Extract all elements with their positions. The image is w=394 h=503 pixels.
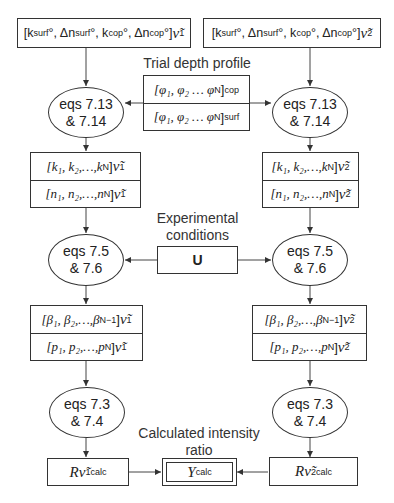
wavenumber-symbol: ν̃ (338, 339, 345, 356)
initial-params-box-nu1: [ksurf°, Δnsurf°, kcop°, Δncop°]ν̃1 (17, 18, 191, 48)
ellipse-line2: & 7.6 (70, 260, 103, 277)
p-list: [p₁, p₂,…,p (270, 339, 328, 355)
experimental-conditions-box: U (157, 246, 238, 274)
y-symbol: Y (187, 464, 195, 481)
param-k: [k (212, 26, 222, 40)
param-dn: °, Δn (49, 26, 76, 40)
ellipse-line2: & 7.6 (294, 260, 327, 277)
ellipse-line1: eqs 7.5 (287, 243, 333, 260)
y-calc-inner-box: Ycalc (166, 462, 233, 482)
experimental-conditions-title: Experimental conditions (150, 210, 245, 244)
trial-depth-profile-box: [φ₁, φ₂ … φN]cop [φ₁, φ₂ … φN]surf (143, 75, 250, 131)
param-dn: °, Δn (123, 26, 150, 40)
ellipse-line2: & 7.4 (294, 413, 327, 430)
title-line2: ratio (135, 442, 263, 459)
wavenumber-symbol: ν̃ (360, 25, 367, 42)
title-line2: conditions (150, 227, 245, 244)
title-line1: Calculated intensity (135, 425, 263, 442)
initial-params-text-nu2: [ksurf°, Δnsurf°, kcop°, Δncop°]ν̃2 (204, 19, 380, 47)
beta-list: [β₁, β₂,…,β (41, 312, 99, 328)
y-calc-outer-box: Ycalc (162, 458, 237, 486)
phi-list: [φ₁, φ₂ … φ (154, 109, 214, 125)
title-line1: Experimental (150, 210, 245, 227)
ellipse-line2: & 7.14 (66, 113, 106, 130)
ellipse-line1: eqs 7.5 (63, 243, 109, 260)
beta-row: [β₁, β₂,…,βN−1]ν̃2 (253, 306, 366, 333)
p-list: [p₁, p₂,…,p (47, 339, 105, 355)
ellipse-line1: eqs 7.13 (59, 96, 113, 113)
p-row: [p₁, p₂,…,pN]ν̃2 (253, 333, 366, 360)
k-row: [k₁, k₂,…,kN]ν̃2 (263, 153, 358, 180)
param-k: °, k (278, 26, 296, 40)
eqs-7-3-ellipse-right: eqs 7.3 & 7.4 (272, 387, 348, 438)
r-symbol: R (295, 463, 304, 480)
phi-list: [φ₁, φ₂ … φ (154, 82, 214, 98)
r-symbol: R (70, 464, 79, 481)
wavenumber-symbol: ν̃ (120, 311, 127, 328)
optical-constants-box-nu1: [k₁, k₂,…,kN]ν̃1 [n₁, n₂,…,nN]ν̃1 (30, 152, 141, 208)
ellipse-line2: & 7.4 (71, 413, 104, 430)
wavenumber-symbol: ν̃ (114, 186, 121, 203)
initial-params-text-nu1: [ksurf°, Δnsurf°, kcop°, Δncop°]ν̃1 (18, 19, 190, 47)
ellipse-line1: eqs 7.13 (283, 96, 337, 113)
eqs-7-13-ellipse-right: eqs 7.13 & 7.14 (272, 87, 348, 138)
k-list: [k₁, k₂,…,k (47, 159, 103, 175)
param-k: [k (24, 26, 34, 40)
r-calc-text-nu1: Rν̃1calc (48, 459, 128, 485)
n-list: [n₁, n₂,…,n (46, 186, 104, 202)
eqs-7-5-ellipse-right: eqs 7.5 & 7.6 (272, 234, 348, 286)
calculated-intensity-ratio-title: Calculated intensity ratio (135, 425, 263, 459)
wavenumber-symbol: ν̃ (79, 464, 86, 481)
wavenumber-symbol: ν̃ (115, 339, 122, 356)
wavenumber-symbol: ν̃ (304, 463, 311, 480)
n-list: [n₁, n₂,…,n (271, 186, 329, 202)
y-calc-text: Ycalc (167, 463, 232, 481)
r-calc-box-nu1: Rν̃1calc (47, 458, 129, 486)
eqs-7-3-ellipse-left: eqs 7.3 & 7.4 (49, 387, 125, 438)
beta-p-box-nu1: [β₁, β₂,…,βN−1]ν̃1 [p₁, p₂,…,pN]ν̃1 (30, 305, 143, 361)
wavenumber-symbol: ν̃ (339, 186, 346, 203)
ellipse-line1: eqs 7.3 (64, 396, 110, 413)
n-row: [n₁, n₂,…,nN]ν̃1 (31, 180, 140, 207)
optical-constants-box-nu2: [k₁, k₂,…,kN]ν̃2 [n₁, n₂,…,nN]ν̃2 (262, 152, 359, 208)
eqs-7-13-ellipse-left: eqs 7.13 & 7.14 (48, 87, 124, 138)
depth-profile-cop-row: [φ₁, φ₂ … φN]cop (144, 76, 249, 103)
p-row: [p₁, p₂,…,pN]ν̃1 (31, 333, 142, 360)
wavenumber-symbol: ν̃ (343, 311, 350, 328)
ellipse-line2: & 7.14 (290, 113, 330, 130)
wavenumber-symbol: ν̃ (172, 25, 179, 42)
param-close: °] (352, 26, 360, 40)
initial-params-box-nu2: [ksurf°, Δnsurf°, kcop°, Δncop°]ν̃2 (203, 18, 381, 48)
u-value: U (158, 247, 237, 273)
r-calc-box-nu2: Rν̃2calc (269, 457, 358, 486)
ellipse-line1: eqs 7.3 (287, 396, 333, 413)
eqs-7-5-ellipse-left: eqs 7.5 & 7.6 (48, 234, 124, 286)
trial-depth-profile-title: Trial depth profile (140, 55, 254, 72)
depth-profile-surf-row: [φ₁, φ₂ … φN]surf (144, 103, 249, 130)
n-row: [n₁, n₂,…,nN]ν̃2 (263, 180, 358, 207)
beta-row: [β₁, β₂,…,βN−1]ν̃1 (31, 306, 142, 333)
param-dn: °, Δn (311, 26, 338, 40)
param-k: °, k (90, 26, 108, 40)
k-list: [k₁, k₂,…,k (272, 159, 328, 175)
wavenumber-symbol: ν̃ (113, 158, 120, 175)
r-calc-text-nu2: Rν̃2calc (270, 458, 357, 485)
k-row: [k₁, k₂,…,kN]ν̃1 (31, 153, 140, 180)
param-dn: °, Δn (237, 26, 264, 40)
wavenumber-symbol: ν̃ (338, 158, 345, 175)
param-close: °] (164, 26, 172, 40)
beta-list: [β₁, β₂,…,β (264, 312, 322, 328)
beta-p-box-nu2: [β₁, β₂,…,βN−1]ν̃2 [p₁, p₂,…,pN]ν̃2 (252, 305, 367, 361)
